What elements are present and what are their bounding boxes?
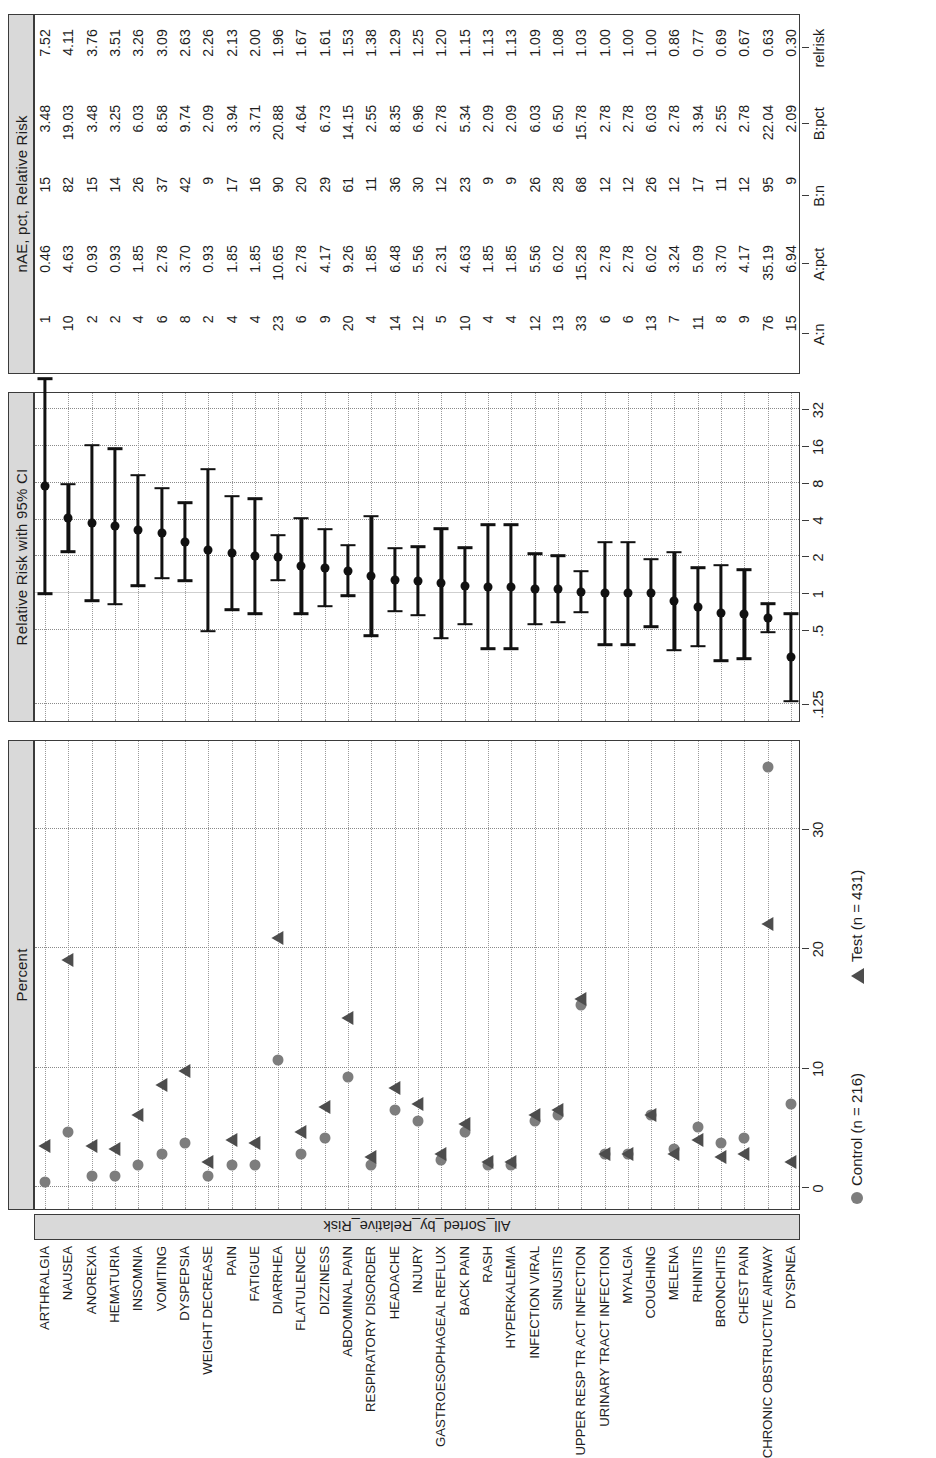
table-cell: 8 — [177, 315, 193, 323]
row-guide — [535, 741, 536, 1209]
test-percent-marker — [435, 1147, 447, 1161]
table-cell: 5 — [433, 315, 449, 323]
table-cell: 6.03 — [130, 105, 146, 133]
ae-category-label: CHRONIC OBSTRUCTIVE AIRWAY — [759, 1246, 774, 1458]
table-cell: 12 — [527, 315, 543, 331]
confidence-interval-cap — [667, 551, 682, 553]
control-percent-marker — [249, 1160, 260, 1171]
row-guide — [371, 741, 372, 1209]
relative-risk-point — [180, 537, 189, 546]
control-percent-marker — [716, 1138, 727, 1149]
confidence-interval-cap — [224, 495, 239, 497]
confidence-interval-cap — [480, 524, 495, 526]
table-cell: 26 — [527, 177, 543, 193]
table-cell: 0.46 — [37, 245, 53, 273]
table-cell: 12 — [410, 315, 426, 331]
confidence-interval-cap — [364, 634, 379, 636]
test-percent-marker — [528, 1108, 540, 1122]
table-cell: 10.65 — [270, 245, 286, 281]
table-cell: 76 — [760, 315, 776, 331]
confidence-interval-cap — [550, 621, 565, 623]
ae-category-label: CHEST PAIN — [736, 1246, 751, 1324]
test-percent-marker — [668, 1147, 680, 1161]
confidence-interval-cap — [107, 447, 122, 449]
confidence-interval-cap — [38, 592, 53, 594]
test-percent-marker — [248, 1136, 260, 1150]
table-cell: 10 — [457, 315, 473, 331]
panel-percent-strip: Percent — [8, 740, 34, 1210]
control-percent-marker — [179, 1138, 190, 1149]
panel-relative-risk[interactable] — [34, 392, 800, 722]
table-cell: 3.71 — [247, 105, 263, 133]
test-percent-marker — [458, 1117, 470, 1131]
table-cell: 1.85 — [224, 245, 240, 273]
axis-tick-label: 2 — [810, 553, 826, 561]
row-guide — [465, 741, 466, 1209]
control-percent-marker — [343, 1071, 354, 1082]
confidence-interval-cap — [177, 501, 192, 503]
table-cell: 10 — [60, 315, 76, 331]
table-cell: 1.00 — [643, 29, 659, 57]
panel-table[interactable]: 10.46153.487.52104.638219.034.1120.93153… — [34, 14, 800, 374]
relative-risk-point — [227, 549, 236, 558]
confidence-interval-cap — [620, 643, 635, 645]
test-percent-marker — [202, 1155, 214, 1169]
table-cell: 1.67 — [293, 29, 309, 57]
triangle-marker-icon — [851, 968, 864, 984]
table-cell: 16 — [247, 177, 263, 193]
table-cell: 9 — [736, 315, 752, 323]
test-percent-marker — [784, 1155, 796, 1169]
axis-tick — [802, 593, 809, 594]
axis-tick-label: 20 — [810, 941, 826, 957]
panel-table-strip: nAE, pct, Relative Risk — [8, 14, 34, 374]
panel-percent[interactable] — [34, 740, 800, 1210]
axis-tick — [802, 556, 809, 557]
axis-tick — [802, 263, 809, 264]
grid-line — [35, 408, 799, 409]
table-cell: 6 — [154, 315, 170, 323]
confidence-interval-cap — [107, 603, 122, 605]
relative-risk-point — [87, 518, 96, 527]
row-guide — [651, 393, 652, 721]
table-cell: 2.78 — [666, 105, 682, 133]
table-cell: 3.48 — [84, 105, 100, 133]
table-cell: 90 — [270, 177, 286, 193]
table-cell: 15.78 — [573, 105, 589, 141]
confidence-interval-cap — [714, 660, 729, 662]
confidence-interval-cap — [201, 468, 216, 470]
control-percent-marker — [156, 1149, 167, 1160]
relative-risk-point — [414, 577, 423, 586]
test-percent-marker — [365, 1150, 377, 1164]
table-cell: 6.03 — [643, 105, 659, 133]
relative-risk-x-axis: .125.512481632 — [802, 392, 832, 722]
control-percent-marker — [226, 1160, 237, 1171]
ae-category-label: ANOREXIA — [83, 1246, 98, 1314]
table-column-header: A:n — [811, 324, 827, 346]
row-guide — [791, 741, 792, 1209]
row-guide — [558, 741, 559, 1209]
confidence-interval-cap — [294, 517, 309, 519]
table-cell: 3.70 — [177, 245, 193, 273]
table-cell: 9 — [503, 177, 519, 185]
table-cell: 2.26 — [200, 29, 216, 57]
axis-tick-label: 1 — [810, 590, 826, 598]
control-percent-marker — [109, 1171, 120, 1182]
ae-category-label: SINUSITIS — [549, 1246, 564, 1310]
ae-category-label: GASTROESOPHAGEAL REFLUX — [433, 1246, 448, 1447]
ae-category-label: ARTHRALGIA — [37, 1246, 52, 1330]
table-cell: 1.20 — [433, 29, 449, 57]
table-cell: 0.69 — [713, 29, 729, 57]
ae-category-label: NAUSEA — [60, 1246, 75, 1300]
ae-category-label: DYSPEPSIA — [176, 1246, 191, 1321]
relative-risk-point — [600, 589, 609, 598]
confidence-interval-cap — [737, 569, 752, 571]
test-percent-marker — [178, 1064, 190, 1078]
axis-tick — [802, 1068, 809, 1069]
table-cell: 12 — [666, 177, 682, 193]
table-cell: 7.52 — [37, 29, 53, 57]
panel-relative-risk-strip: Relative Risk with 95% CI — [8, 392, 34, 722]
table-cell: 0.63 — [760, 29, 776, 57]
table-cell: 1.25 — [410, 29, 426, 57]
table-plot-area: 10.46153.487.52104.638219.034.1120.93153… — [35, 15, 799, 373]
